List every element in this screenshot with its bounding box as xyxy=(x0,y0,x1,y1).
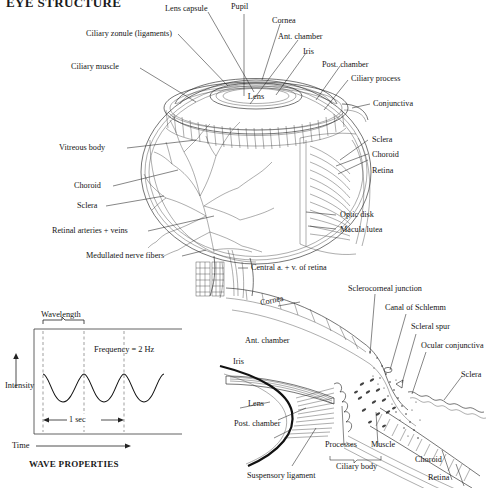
label-lens-detail: Lens xyxy=(248,399,264,408)
label-one-sec: 1 sec xyxy=(69,415,86,424)
label-canal-of-schlemm: Canal of Schlemm xyxy=(385,303,446,312)
label-retinal-arteries-veins: Retinal arteries + veins xyxy=(52,226,128,235)
label-choroid-detail: Choroid xyxy=(415,455,442,464)
label-ocular-conjunctiva: Ocular conjunctiva xyxy=(421,341,484,350)
label-conjunctiva: Conjunctiva xyxy=(373,99,413,108)
axis-label-intensity: Intensity xyxy=(5,381,34,390)
label-choroid-right: Choroid xyxy=(372,150,399,159)
label-frequency: Frequency = 2 Hz xyxy=(94,345,154,354)
anterior-detail-drawing xyxy=(230,280,492,488)
label-lens-capsule: Lens capsule xyxy=(165,4,208,13)
label-iris: Iris xyxy=(303,47,314,56)
label-post-chamber: Post. chamber xyxy=(322,60,368,69)
label-choroid-left: Choroid xyxy=(74,181,101,190)
label-iris-detail: Iris xyxy=(233,357,244,366)
label-post-chamber-detail: Post. chamber xyxy=(234,419,280,428)
label-wavelength: Wavelength xyxy=(41,310,81,319)
eye-structure-figure: EYE STRUCTURE Lens xyxy=(0,0,492,488)
label-ciliary-muscle: Ciliary muscle xyxy=(71,62,119,71)
label-pupil: Pupil xyxy=(231,2,248,11)
label-ant-chamber-detail: Ant. chamber xyxy=(245,336,290,345)
label-sclera-detail: Sclera xyxy=(461,370,481,379)
label-processes: Processes xyxy=(325,440,357,449)
label-ciliary-zonule: Ciliary zonule (ligaments) xyxy=(86,29,172,38)
label-ciliary-body: Ciliary body xyxy=(336,462,377,471)
label-retina-right: Retina xyxy=(372,166,393,175)
label-suspensory-ligament: Suspensory ligament xyxy=(247,471,315,480)
label-muscle: Muscle xyxy=(371,440,395,449)
label-sclera-right: Sclera xyxy=(372,135,392,144)
label-cornea: Cornea xyxy=(272,16,296,25)
label-medullated-nerve-fibers: Medullated nerve fibers xyxy=(86,251,164,260)
chart-caption: WAVE PROPERTIES xyxy=(29,459,119,469)
label-sclerocorneal-junction: Sclerocorneal junction xyxy=(348,284,422,293)
label-ciliary-process: Ciliary process xyxy=(351,74,400,83)
label-retina-detail: Retina xyxy=(428,473,449,482)
label-optic-disk: Optic disk xyxy=(340,210,374,219)
axis-label-time: Time xyxy=(12,441,29,450)
label-macula-lutea: Macula lutea xyxy=(340,225,383,234)
label-scleral-spur: Scleral spur xyxy=(411,322,450,331)
label-vitreous-body: Vitreous body xyxy=(59,143,105,152)
svg-text:Lens: Lens xyxy=(248,92,264,101)
label-sclera-left: Sclera xyxy=(77,201,97,210)
label-ant-chamber: Ant. chamber xyxy=(278,32,323,41)
label-central-a-v-retina: Central a. + v. of retina xyxy=(251,263,327,272)
